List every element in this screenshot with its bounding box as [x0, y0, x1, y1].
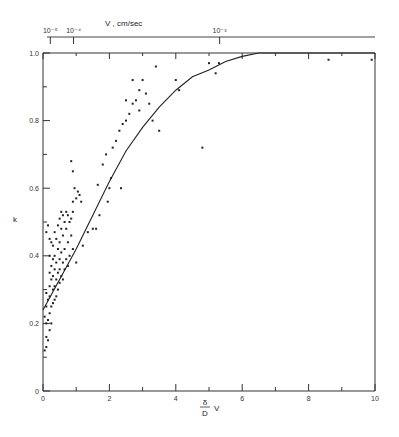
fitted-curve	[43, 53, 375, 310]
y-axis-label: k	[13, 215, 18, 224]
data-point	[75, 262, 77, 264]
data-point	[64, 221, 66, 223]
x-tick-label: 4	[174, 395, 178, 402]
data-point	[52, 275, 54, 277]
data-point	[47, 224, 49, 226]
data-point	[145, 93, 147, 95]
data-point	[132, 79, 134, 81]
data-point	[218, 62, 220, 64]
data-point	[55, 262, 57, 264]
data-point	[50, 241, 52, 243]
data-point	[50, 306, 52, 308]
data-point	[60, 228, 62, 230]
data-point	[69, 255, 71, 257]
data-point	[110, 177, 112, 179]
data-point	[49, 285, 51, 287]
data-point	[77, 191, 79, 193]
data-point	[142, 79, 144, 81]
data-point	[112, 147, 114, 149]
data-point	[47, 339, 49, 341]
data-point	[55, 278, 57, 280]
plot-frame	[43, 53, 375, 391]
data-point	[72, 170, 74, 172]
data-point	[44, 316, 46, 318]
x-axis-label-numerator: δ	[203, 398, 208, 407]
data-point	[107, 201, 109, 203]
data-point	[54, 255, 56, 257]
data-point	[138, 109, 140, 111]
data-point	[97, 184, 99, 186]
x-axis-label-denominator: D	[202, 409, 208, 418]
secondary-x-axis-label: V , cm/sec	[105, 19, 142, 28]
data-point	[62, 235, 64, 237]
data-point	[108, 187, 110, 189]
data-point	[47, 319, 49, 321]
data-point	[59, 241, 61, 243]
data-point	[65, 228, 67, 230]
data-point	[201, 147, 203, 149]
data-point	[138, 89, 140, 91]
data-point	[59, 218, 61, 220]
data-point	[64, 248, 66, 250]
x-axis-label: δ D V	[200, 398, 220, 418]
secondary-x-axis: 10⁻⁵10⁻⁴10⁻³ V , cm/sec	[43, 19, 375, 44]
data-point	[158, 130, 160, 132]
data-point	[45, 346, 47, 348]
y-tick-label: 0.2	[29, 320, 39, 327]
data-point	[155, 66, 157, 68]
data-point	[371, 59, 373, 61]
x-axis-ticks: 0246810	[41, 53, 379, 402]
data-point	[152, 120, 154, 122]
data-point	[67, 214, 69, 216]
data-point	[49, 312, 51, 314]
data-point	[59, 268, 61, 270]
data-point	[50, 322, 52, 324]
secondary-x-tick-label: 10⁻³	[213, 27, 228, 34]
scatter-points	[44, 59, 373, 352]
data-point	[57, 289, 59, 291]
data-point	[67, 265, 69, 267]
data-point	[148, 103, 150, 105]
x-tick-label: 10	[371, 395, 379, 402]
data-point	[55, 295, 57, 297]
data-point	[62, 262, 64, 264]
data-point	[50, 265, 52, 267]
data-point	[115, 140, 117, 142]
data-point	[72, 211, 74, 213]
data-point	[65, 211, 67, 213]
data-point	[49, 255, 51, 257]
data-point	[69, 221, 71, 223]
y-tick-label: 0.8	[29, 117, 39, 124]
data-point	[82, 245, 84, 247]
chart-canvas: 10⁻⁵10⁻⁴10⁻³ V , cm/sec 0246810 00.20.40…	[0, 0, 399, 437]
data-point	[45, 336, 47, 338]
data-point	[72, 248, 74, 250]
data-point	[54, 268, 56, 270]
data-point	[102, 164, 104, 166]
secondary-x-tick-label: 10⁻⁵	[43, 27, 58, 34]
data-point	[49, 238, 51, 240]
data-point	[57, 248, 59, 250]
y-tick-label: 1.0	[29, 50, 39, 57]
data-point	[57, 224, 59, 226]
data-point	[122, 123, 124, 125]
data-point	[52, 289, 54, 291]
x-tick-label: 8	[307, 395, 311, 402]
y-tick-label: 0.6	[29, 185, 39, 192]
data-point	[64, 268, 66, 270]
data-point	[59, 258, 61, 260]
x-axis-label-suffix: V	[214, 404, 220, 413]
data-point	[60, 251, 62, 253]
data-point	[65, 258, 67, 260]
secondary-x-tick-label: 10⁻⁴	[66, 27, 81, 34]
data-point	[44, 349, 46, 351]
data-point	[45, 306, 47, 308]
data-point	[52, 245, 54, 247]
data-point	[70, 218, 72, 220]
data-point	[125, 120, 127, 122]
data-point	[208, 62, 210, 64]
y-axis-ticks: 00.20.40.60.81.0	[29, 50, 50, 395]
data-point	[105, 153, 107, 155]
data-point	[49, 295, 51, 297]
data-point	[178, 89, 180, 91]
